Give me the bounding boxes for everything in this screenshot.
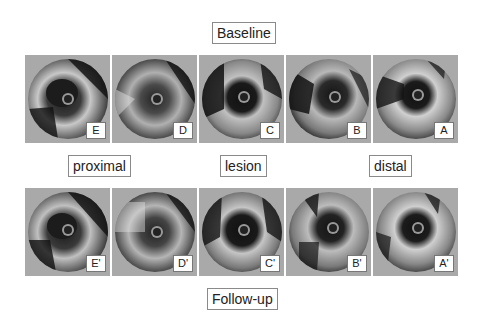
ivus-panel-E-prime: E' [25,188,110,276]
ivus-panel-A-prime: A' [373,188,458,276]
panel-label: C [260,122,280,139]
ivus-panel-D-prime: D' [112,188,197,276]
panel-label: C' [260,255,280,272]
ivus-panel-C: C [199,55,284,143]
panel-label: E [86,122,106,139]
ivus-panel-B: B [286,55,371,143]
panel-label: A [434,122,454,139]
ivus-panel-C-prime: C' [199,188,284,276]
baseline-row: E D [25,55,458,143]
followup-title: Follow-up [207,288,278,310]
ivus-panel-E: E [25,55,110,143]
panel-label: D' [173,255,193,272]
panel-label: A' [434,255,454,272]
ivus-panel-B-prime: B' [286,188,371,276]
lesion-label: lesion [220,155,267,177]
baseline-title: Baseline [212,22,276,44]
distal-label: distal [369,155,412,177]
panel-label: B' [347,255,367,272]
panel-label: B [347,122,367,139]
panel-label: E' [86,255,106,272]
ivus-panel-D: D [112,55,197,143]
followup-row: E' D' [25,188,458,276]
proximal-label: proximal [68,155,131,177]
panel-label: D [173,122,193,139]
ivus-panel-A: A [373,55,458,143]
